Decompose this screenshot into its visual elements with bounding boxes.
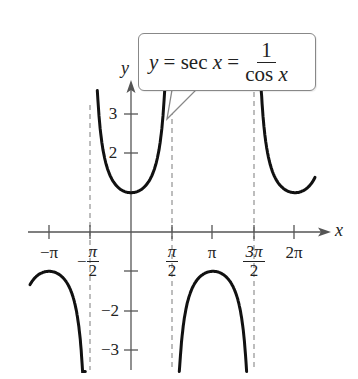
function-callout: y = sec x = 1 cos x (138, 33, 316, 91)
frac-num: π (87, 243, 100, 262)
frac-den: 2 (168, 262, 177, 280)
sec-branch-3 (261, 91, 315, 193)
frac-num: 3π (243, 243, 264, 262)
minus-sign: − (77, 252, 87, 271)
x-axis-label: x (335, 220, 343, 241)
sec-branch-0 (30, 271, 85, 371)
x-tick-pi: π (200, 244, 224, 261)
x-tick-half-pi: π2 (160, 243, 184, 280)
x-axis (28, 225, 331, 239)
callout-x: x (213, 50, 222, 74)
y-tick-3: 3 (106, 105, 120, 122)
x-tick-three-half-pi: 3π2 (238, 243, 270, 280)
y-axis-label: y (121, 58, 129, 79)
callout-numerator: 1 (257, 39, 276, 62)
y-axis (124, 80, 138, 370)
callout-equation: y = sec x = (149, 50, 239, 75)
callout-fraction: 1 cos x (245, 39, 288, 84)
callout-pointer (167, 90, 196, 119)
x-tick-neg-pi: −π (30, 244, 68, 261)
x-tick-neg-half-pi: −π2 (68, 243, 108, 280)
x-tick-two-pi: 2π (278, 244, 310, 261)
sec-branch-2 (179, 271, 246, 371)
callout-y: y (149, 50, 158, 74)
y-tick-neg-2: −2 (98, 302, 122, 319)
frac-den: 2 (89, 262, 98, 280)
frac-num: π (166, 243, 179, 262)
y-tick-neg-3: −3 (98, 341, 122, 358)
frac-den: 2 (250, 262, 259, 280)
callout-equals: = (222, 50, 239, 74)
callout-denominator: cos x (245, 63, 288, 85)
y-tick-2: 2 (106, 144, 120, 161)
callout-sec: = sec (158, 50, 212, 74)
